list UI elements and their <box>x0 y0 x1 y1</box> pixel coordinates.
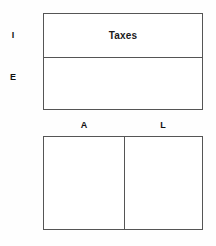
income-row-label: Taxes <box>109 31 138 41</box>
income-expense-box: Taxes <box>43 13 203 110</box>
row-label-expense: E <box>1 73 25 82</box>
assets-liabilities-box <box>43 136 203 230</box>
expense-row-cell <box>44 58 202 109</box>
assets-column-cell <box>44 137 125 229</box>
liabilities-column-cell <box>125 137 202 229</box>
row-label-income: I <box>1 31 25 40</box>
diagram-canvas: I E Taxes A L <box>0 0 216 246</box>
income-row-cell: Taxes <box>44 14 202 58</box>
column-label-liabilities: L <box>149 121 177 130</box>
column-label-assets: A <box>70 121 98 130</box>
